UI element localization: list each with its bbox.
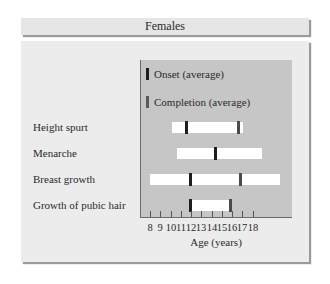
onset-marker (214, 147, 217, 160)
x-axis-line (140, 217, 292, 218)
onset-marker (189, 173, 192, 186)
chart-title: Females (21, 18, 309, 35)
x-tick (150, 211, 151, 217)
x-tick-label: 18 (246, 222, 260, 233)
x-tick (181, 211, 182, 217)
legend-label: Completion (average) (154, 95, 250, 109)
x-tick (212, 211, 213, 217)
x-tick (160, 211, 161, 217)
range-bar-breast-growth (150, 174, 280, 185)
range-bar-pubic-hair (190, 200, 232, 211)
x-tick (201, 211, 202, 217)
row-label-menarche: Menarche (33, 147, 77, 159)
range-bar-menarche (177, 148, 262, 159)
x-tick (242, 211, 243, 217)
plot-area (140, 60, 292, 218)
range-bar-height-spurt (172, 122, 243, 133)
row-label-pubic-hair: Growth of pubic hair (33, 199, 126, 211)
completion-marker (237, 121, 240, 134)
row-label-breast-growth: Breast growth (33, 173, 95, 185)
x-tick (253, 211, 254, 217)
onset-marker (185, 121, 188, 134)
onset-swatch-icon (146, 68, 149, 80)
legend-label: Onset (average) (154, 67, 224, 81)
x-tick (222, 211, 223, 217)
x-axis-label: Age (years) (140, 236, 292, 248)
row-label-height-spurt: Height spurt (33, 121, 88, 133)
completion-marker (239, 173, 242, 186)
x-tick (232, 211, 233, 217)
completion-swatch-icon (146, 96, 149, 108)
x-tick (171, 211, 172, 217)
x-tick (191, 211, 192, 217)
